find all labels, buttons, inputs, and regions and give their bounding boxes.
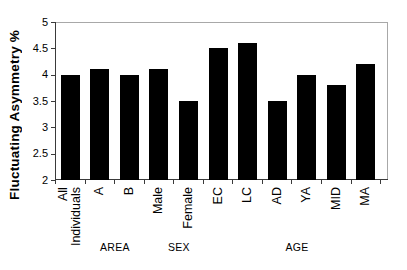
bar-female bbox=[179, 101, 198, 180]
bar-b bbox=[120, 75, 139, 180]
bar-lc bbox=[238, 43, 257, 180]
y-tick-mark bbox=[51, 127, 55, 128]
y-tick-label: 3.5 bbox=[22, 95, 48, 108]
bar-ec bbox=[209, 48, 228, 180]
y-tick-mark bbox=[51, 22, 55, 23]
bar-a bbox=[90, 69, 109, 180]
x-category-label: B bbox=[123, 187, 136, 195]
y-tick-label: 3 bbox=[22, 121, 48, 134]
x-tick-mark bbox=[55, 180, 56, 184]
x-tick-mark bbox=[291, 180, 292, 184]
y-tick-label: 2.5 bbox=[22, 147, 48, 160]
y-tick-mark bbox=[51, 75, 55, 76]
x-tick-mark bbox=[173, 180, 174, 184]
x-tick-mark bbox=[144, 180, 145, 184]
bar-ad bbox=[268, 101, 287, 180]
x-tick-mark bbox=[232, 180, 233, 184]
x-group-label: SEX bbox=[168, 242, 190, 253]
x-category-label: Male bbox=[152, 187, 165, 214]
y-tick-label: 4 bbox=[22, 68, 48, 81]
x-category-label: AD bbox=[271, 187, 284, 204]
y-tick-label: 5 bbox=[22, 16, 48, 29]
x-category-label: LC bbox=[241, 187, 254, 203]
x-category-label: MA bbox=[359, 187, 372, 206]
x-tick-mark bbox=[262, 180, 263, 184]
bar-ma bbox=[356, 64, 375, 180]
x-tick-mark bbox=[85, 180, 86, 184]
y-axis-title: Fluctuating Asymmetry % bbox=[7, 30, 22, 200]
bar-male bbox=[149, 69, 168, 180]
x-tick-mark bbox=[321, 180, 322, 184]
x-category-label: MID bbox=[330, 187, 343, 210]
x-tick-mark bbox=[114, 180, 115, 184]
x-category-label: A bbox=[93, 187, 106, 195]
x-category-label: All Individuals bbox=[57, 187, 83, 246]
chart-figure: Fluctuating Asymmetry % 54.543.532.52All… bbox=[0, 0, 407, 270]
y-tick-mark bbox=[51, 48, 55, 49]
x-category-label: YA bbox=[300, 187, 313, 203]
x-group-label: AREA bbox=[100, 242, 130, 253]
x-tick-mark bbox=[203, 180, 204, 184]
x-tick-mark bbox=[380, 180, 381, 184]
y-tick-label: 4.5 bbox=[22, 42, 48, 55]
x-group-label: AGE bbox=[286, 242, 309, 253]
bar-all-individuals bbox=[61, 75, 80, 180]
x-category-label: Female bbox=[182, 187, 195, 229]
bar-mid bbox=[327, 85, 346, 180]
x-tick-mark bbox=[351, 180, 352, 184]
y-tick-mark bbox=[51, 154, 55, 155]
y-tick-mark bbox=[51, 101, 55, 102]
bar-ya bbox=[297, 75, 316, 180]
y-axis-line bbox=[55, 22, 56, 180]
y-tick-label: 2 bbox=[22, 174, 48, 187]
x-category-label: EC bbox=[212, 187, 225, 204]
